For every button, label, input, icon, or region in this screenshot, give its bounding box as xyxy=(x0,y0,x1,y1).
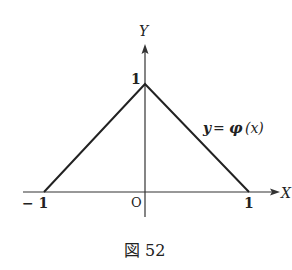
y-tick-1: 1 xyxy=(131,71,141,87)
curve-label-arg: (x) xyxy=(245,120,264,136)
origin-label: O xyxy=(131,195,142,210)
x-tick-neg1: − 1 xyxy=(22,195,48,211)
y-axis-label: Y xyxy=(139,23,150,39)
curve-label-eq: = xyxy=(213,120,225,136)
figure-caption: 図 52 xyxy=(124,241,165,260)
x-axis-label: X xyxy=(280,185,292,201)
curve-phi xyxy=(44,84,249,192)
diagram: Y 1 X − 1 O 1 y = φ (x) 図 52 xyxy=(0,0,292,270)
curve-label-fn: φ xyxy=(229,119,243,137)
curve-label-lhs: y xyxy=(202,120,212,136)
curve-label: y = φ (x) xyxy=(202,119,264,137)
x-tick-1: 1 xyxy=(244,195,254,211)
